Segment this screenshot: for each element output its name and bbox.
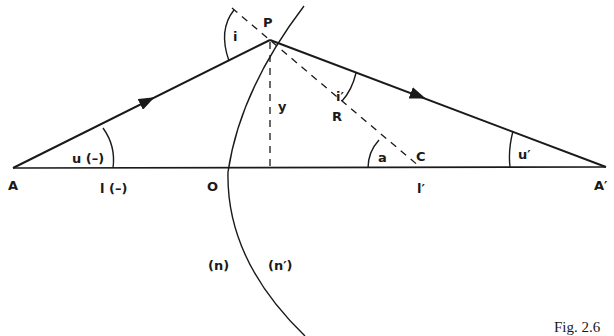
figure-caption: Fig. 2.6 (554, 319, 601, 335)
label-u: u (–) (72, 151, 104, 166)
label-P: P (263, 15, 273, 30)
incident-ray (13, 40, 270, 168)
normal-line (232, 8, 420, 167)
label-R: R (332, 109, 342, 124)
label-l: l (–) (100, 181, 127, 196)
label-C: C (416, 149, 426, 164)
label-O: O (207, 179, 218, 194)
refraction-diagram: A A′ P O C R i i′ u (–) u′ a l (–) l′ y … (0, 0, 614, 336)
label-A: A (8, 178, 18, 193)
label-i: i (233, 29, 237, 44)
angle-arc-u (103, 128, 114, 168)
refracted-ray-arrow-icon (414, 94, 422, 97)
refracted-ray (270, 40, 606, 167)
label-i-prime: i′ (336, 89, 344, 104)
label-medium-n-prime: (n′) (268, 258, 293, 273)
label-A-prime: A′ (594, 178, 608, 193)
label-y: y (278, 99, 287, 114)
label-u-prime: u′ (518, 147, 531, 162)
incident-ray-arrow-icon (143, 99, 151, 103)
angle-arc-u-prime (509, 131, 513, 167)
label-a: a (378, 150, 387, 165)
label-medium-n: (n) (208, 258, 229, 273)
angle-arc-i-prime (342, 73, 356, 101)
label-l-prime: l′ (417, 181, 425, 196)
optical-axis (13, 167, 606, 168)
